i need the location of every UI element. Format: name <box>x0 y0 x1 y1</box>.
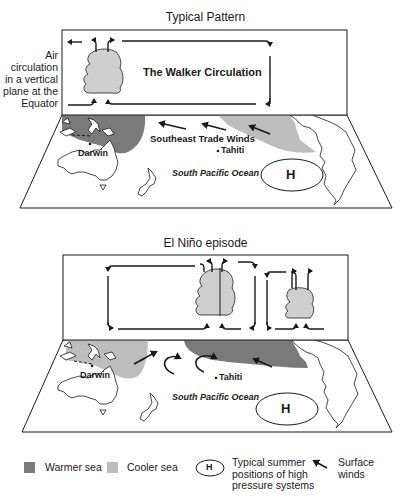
darwin-label: Darwin <box>78 148 108 158</box>
top-convection-cloud <box>84 49 123 93</box>
top-map <box>20 115 392 208</box>
walker-circulation-label: The Walker Circulation <box>143 66 262 78</box>
surface-winds-legend-label: Surface winds <box>338 457 374 480</box>
high-pressure-legend-label: Typical summer positions of high pressur… <box>232 457 314 492</box>
central-pacific-cloud <box>196 269 235 315</box>
el-nino-title: El Niño episode <box>0 236 411 250</box>
cooler-sea-swatch <box>107 462 118 473</box>
bottom-tahiti-label: Tahiti <box>219 372 242 382</box>
bottom-high-pressure-label: H <box>281 401 290 416</box>
bottom-south-pacific-ocean-label: South Pacific Ocean <box>172 392 259 402</box>
legend-high-symbol: H <box>206 462 213 472</box>
bottom-darwin-label: Darwin <box>80 370 110 380</box>
bottom-tahiti-dot <box>215 377 218 380</box>
east-pacific-cloud <box>286 288 314 318</box>
south-pacific-ocean-label: South Pacific Ocean <box>172 168 259 178</box>
tahiti-dot <box>217 150 220 153</box>
tahiti-label: Tahiti <box>221 145 244 155</box>
warmer-sea-label: Warmer sea <box>45 462 102 474</box>
high-pressure-label: H <box>286 167 295 182</box>
cooler-sea-label: Cooler sea <box>127 462 178 474</box>
warmer-sea-swatch <box>24 462 35 473</box>
bottom-map <box>22 340 392 432</box>
legend-surface-wind-icon <box>314 461 327 468</box>
bottom-darwin-dot <box>91 365 94 368</box>
southeast-trade-winds-label: Southeast Trade Winds <box>150 133 255 144</box>
darwin-dot <box>89 143 92 146</box>
